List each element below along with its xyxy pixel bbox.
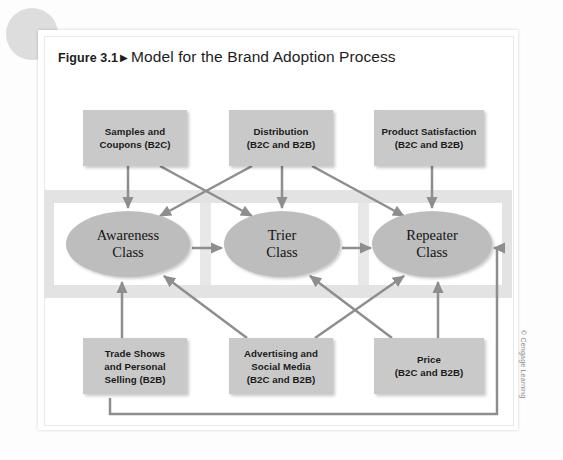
- edge-advertising-repeater: [315, 276, 404, 338]
- ellipse-trier-class[interactable]: TrierClass: [224, 211, 340, 277]
- edge-advertising-awareness: [164, 276, 247, 338]
- box-trade-shows-personal-selling[interactable]: Trade Showsand PersonalSelling (B2B): [83, 338, 187, 394]
- edge-price-trier: [310, 276, 392, 338]
- ellipse-awareness-class[interactable]: AwarenessClass: [66, 211, 190, 277]
- box-distribution[interactable]: Distribution(B2C and B2B): [229, 110, 333, 166]
- edge-distribution-repeater: [312, 166, 404, 216]
- box-samples-and-coupons[interactable]: Samples andCoupons (B2C): [83, 110, 187, 166]
- box-price[interactable]: Price(B2C and B2B): [374, 338, 484, 394]
- box-advertising-social-media[interactable]: Advertising andSocial Media(B2C and B2B): [229, 338, 333, 394]
- ellipse-repeater-class[interactable]: RepeaterClass: [372, 211, 492, 277]
- copyright-notice: © Cengage Learning: [520, 330, 527, 398]
- page-root: Figure 3.1▶Model for the Brand Adoption …: [0, 0, 563, 460]
- box-product-satisfaction[interactable]: Product Satisfaction(B2C and B2B): [374, 110, 484, 166]
